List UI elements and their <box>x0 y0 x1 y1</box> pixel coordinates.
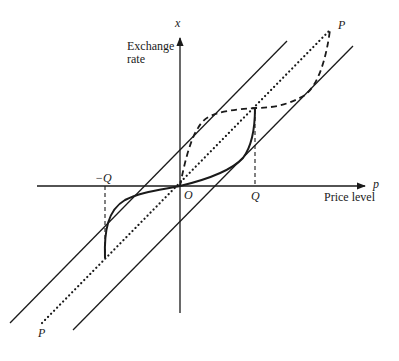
x-axis-symbol: p <box>372 177 379 191</box>
y-axis-label-line2: rate <box>127 52 145 66</box>
parity-line <box>42 30 330 323</box>
x-axis-label: Price level <box>324 190 376 204</box>
y-axis-symbol: x <box>174 16 181 30</box>
diagram: x Exchange rate p Price level O Q −Q P P <box>0 0 399 361</box>
q-tick-label: Q <box>251 189 260 203</box>
parity-label-lower: P <box>37 326 46 340</box>
neg-q-tick-label: −Q <box>95 171 112 185</box>
parity-label-upper: P <box>337 18 346 32</box>
origin-label: O <box>184 188 193 202</box>
y-axis-label-line1: Exchange <box>127 39 174 53</box>
upper-band-line <box>10 41 287 323</box>
